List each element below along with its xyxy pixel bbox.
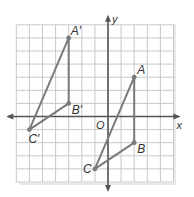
y-axis-arrow-down-icon — [105, 185, 111, 192]
y-axis-arrow-up-icon — [105, 15, 111, 22]
vertex-label: C′ — [28, 132, 40, 146]
vertex-label: B′ — [72, 103, 83, 117]
x-axis-label: x — [176, 119, 183, 131]
vertex-point — [66, 101, 71, 106]
vertex-point — [132, 75, 137, 80]
vertex-point — [93, 167, 98, 172]
vertex-label: C — [83, 162, 92, 176]
origin-label: O — [96, 119, 105, 131]
x-axis-arrow-left-icon — [6, 114, 13, 120]
vertex-point — [132, 140, 137, 145]
coordinate-plane-svg: x y O ABCA′B′C′ — [0, 0, 194, 197]
coordinate-plane-figure: x y O ABCA′B′C′ — [0, 0, 194, 197]
vertex-label: B — [137, 142, 145, 156]
vertex-label: A — [136, 63, 145, 77]
vertex-label: A′ — [70, 24, 82, 38]
